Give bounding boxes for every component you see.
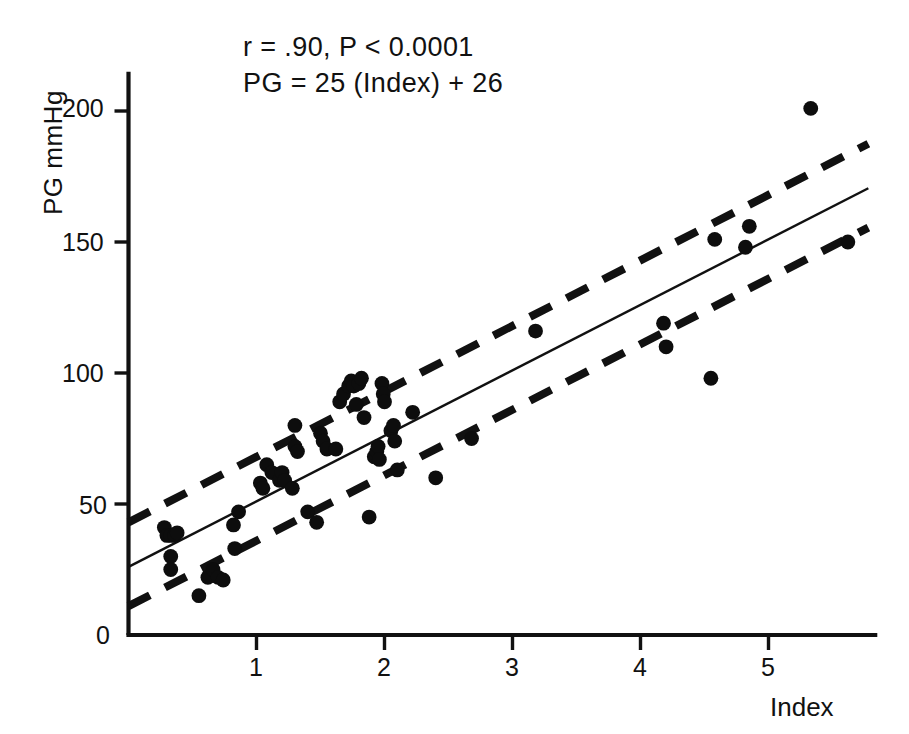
y-tick-label-50: 50 (79, 491, 107, 520)
data-point (428, 470, 443, 485)
x-tick-label-1: 1 (249, 653, 263, 682)
data-point (659, 339, 674, 354)
data-point (656, 316, 671, 331)
x-tick-label-3: 3 (505, 653, 519, 682)
data-point (216, 573, 231, 588)
data-point (528, 324, 543, 339)
y-tick-label-200: 200 (62, 94, 104, 123)
data-point (362, 510, 377, 525)
data-point (371, 439, 386, 454)
data-point (386, 418, 401, 433)
data-point-group (157, 101, 855, 603)
data-point (226, 518, 241, 533)
data-point (372, 452, 387, 467)
data-point (227, 541, 242, 556)
data-point (231, 504, 246, 519)
data-point (377, 394, 392, 409)
plot-canvas (0, 0, 909, 734)
data-point (354, 371, 369, 386)
annotation-equation: PG = 25 (Index) + 26 (243, 68, 503, 99)
data-point (738, 240, 753, 255)
data-point (192, 588, 207, 603)
data-point (163, 549, 178, 564)
data-point (840, 235, 855, 250)
y-tick-label-150: 150 (62, 228, 104, 257)
upper-confidence-limit (129, 144, 869, 523)
data-point (742, 219, 757, 234)
data-point (464, 431, 479, 446)
data-point (256, 481, 271, 496)
x-tick-label-4: 4 (633, 653, 647, 682)
scatter-plot-figure: PG mmHg Index r = .90, P < 0.0001 PG = 2… (0, 0, 909, 734)
data-point (390, 463, 405, 478)
data-point (163, 562, 178, 577)
data-point (288, 418, 303, 433)
x-axis-label: Index (770, 692, 834, 723)
data-point (803, 101, 818, 116)
data-point (357, 410, 372, 425)
x-tick-label-2: 2 (377, 653, 391, 682)
x-tick-label-5: 5 (761, 653, 775, 682)
data-point (290, 444, 305, 459)
data-point (405, 405, 420, 420)
data-point (328, 442, 343, 457)
data-point (707, 232, 722, 247)
data-point (170, 525, 185, 540)
data-point (387, 434, 402, 449)
data-point (309, 515, 324, 530)
data-point (349, 397, 364, 412)
data-point (285, 481, 300, 496)
annotation-correlation: r = .90, P < 0.0001 (243, 32, 474, 63)
y-tick-label-0: 0 (96, 621, 110, 650)
data-point (704, 371, 719, 386)
y-tick-label-100: 100 (62, 359, 104, 388)
